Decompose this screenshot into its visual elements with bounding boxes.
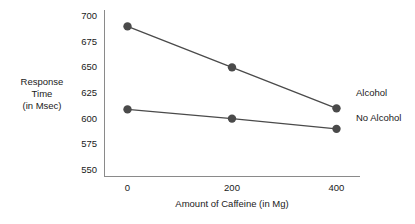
y-tick-label: 650: [71, 62, 97, 72]
data-point-marker: [228, 63, 236, 71]
chart-figure: Response Time (in Msec) 7006756506256005…: [0, 0, 415, 224]
data-point-marker: [123, 22, 131, 30]
y-tick-label: 625: [71, 88, 97, 98]
series-label-alcohol: Alcohol: [356, 87, 387, 98]
x-axis-title: Amount of Caffeine (in Mg): [104, 198, 360, 209]
y-axis-title-line-3: (in Msec): [6, 100, 78, 112]
x-tick-label: 0: [108, 183, 148, 193]
y-tick-label: 550: [71, 165, 97, 175]
y-axis-title-line-1: Response: [6, 76, 78, 88]
data-point-marker: [123, 105, 131, 113]
series-label-no-alcohol: No Alcohol: [356, 112, 401, 123]
y-tick-label: 575: [71, 139, 97, 149]
plot-area: [104, 10, 360, 177]
y-axis-title: Response Time (in Msec): [6, 76, 78, 112]
y-tick-label: 675: [71, 37, 97, 47]
data-point-marker: [332, 125, 340, 133]
data-point-marker: [228, 114, 236, 122]
y-axis-title-line-2: Time: [6, 88, 78, 100]
y-tick-label: 700: [71, 11, 97, 21]
y-tick-label: 600: [71, 114, 97, 124]
series-layer: [104, 10, 360, 177]
x-tick-label: 400: [316, 183, 356, 193]
x-tick-label: 200: [212, 183, 252, 193]
data-point-marker: [332, 104, 340, 112]
